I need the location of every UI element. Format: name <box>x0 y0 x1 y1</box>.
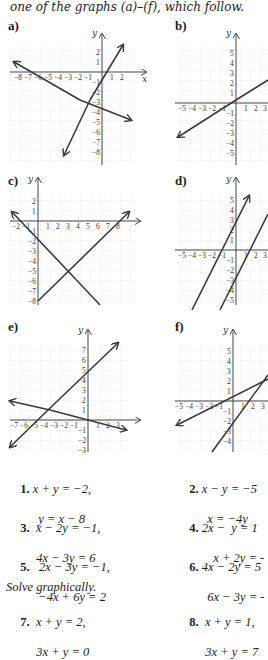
exercise-number: 7. <box>20 615 29 629</box>
equation-1: 2x − 3y = −1, <box>39 560 110 574</box>
equation-2: 3x + y = 7 <box>205 645 258 659</box>
exercise-number: 4. <box>189 521 198 535</box>
svg-text:−4: −4 <box>185 402 193 411</box>
exercise-number: 2. <box>189 482 198 496</box>
svg-text:1: 1 <box>227 387 231 396</box>
svg-text:3: 3 <box>261 402 265 411</box>
exercise-8: 8. x + y = 1, 3x + y = 7 <box>183 600 258 660</box>
equation-1: x + y = 2, <box>36 615 86 629</box>
svg-text:−1: −1 <box>223 407 231 416</box>
equation-1: x − 2y = −1, <box>36 521 101 535</box>
exercise-number: 1. <box>20 482 29 496</box>
svg-text:y: y <box>222 325 229 335</box>
exercise-6: 6. 4x − 2y = 5 6x − 3y = - <box>183 545 264 605</box>
exercise-5: 5. 2x − 3y = −1, −4x + 6y = 2 <box>14 545 110 605</box>
equation-1: 2x − y = 1 <box>202 521 258 535</box>
section-heading: Solve graphically. <box>6 580 96 595</box>
exercise-number: 8. <box>189 615 198 629</box>
exercise-number: 6. <box>189 560 198 574</box>
svg-text:−4: −4 <box>223 437 231 446</box>
equation-1: 4x − 2y = 5 <box>202 560 261 574</box>
exercise-7: 7. x + y = 2, 3x + y = 0 <box>14 600 89 660</box>
equation-1: x + y = −2, <box>33 482 91 496</box>
equation-2: 3x + y = 0 <box>36 645 89 659</box>
svg-text:−3: −3 <box>195 402 203 411</box>
svg-text:2: 2 <box>251 402 255 411</box>
svg-text:3: 3 <box>227 367 231 376</box>
svg-text:4: 4 <box>227 357 231 366</box>
graph-f: y −5−4−3−2−1 123 54321 −1−2−3−4 <box>0 0 268 460</box>
equation-1: x − y = −5 <box>202 482 257 496</box>
svg-text:−5: −5 <box>175 402 183 411</box>
svg-text:−2: −2 <box>223 417 231 426</box>
svg-text:5: 5 <box>227 347 231 356</box>
svg-text:2: 2 <box>227 377 231 386</box>
exercise-number: 5. <box>20 560 29 574</box>
exercise-number: 3. <box>20 521 29 535</box>
equation-1: x + y = 1, <box>205 615 255 629</box>
